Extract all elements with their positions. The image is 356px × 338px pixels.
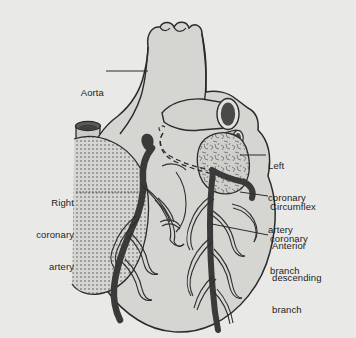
- label-right-coronary-artery-line1: Right: [8, 198, 74, 209]
- label-right-coronary-artery-line3: artery: [8, 262, 74, 273]
- label-aorta-line1: Aorta: [32, 88, 104, 99]
- label-right-coronary-artery-line2: coronary: [8, 230, 74, 241]
- label-circumflex-coronary-branch-line1: Circumflex: [270, 202, 356, 213]
- label-aorta: Aorta: [32, 66, 104, 120]
- label-anterior-descending-branch-line1: Anterior: [272, 241, 356, 252]
- label-anterior-descending-branch-line2: descending: [272, 273, 356, 284]
- label-anterior-descending-branch: Anterior descending branch: [272, 219, 356, 338]
- label-anterior-descending-branch-line3: branch: [272, 305, 356, 316]
- coronary-artery-diagram: Aorta Right coronary artery Left coronar…: [0, 0, 356, 338]
- label-left-coronary-artery-line1: Left: [268, 161, 354, 172]
- left-atrial-appendage: [197, 133, 249, 194]
- label-right-coronary-artery: Right coronary artery: [8, 176, 74, 295]
